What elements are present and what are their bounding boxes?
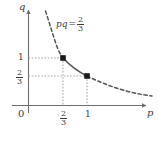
data-point-marker-b bbox=[84, 73, 90, 79]
equation-lhs: pq bbox=[56, 20, 68, 29]
fraction-denominator: 3 bbox=[16, 77, 23, 86]
fraction-numerator: 2 bbox=[16, 69, 23, 77]
y-axis-label: q bbox=[19, 2, 25, 12]
y-tick-label-1: 1 bbox=[18, 53, 24, 62]
curve-equation-label: pq = 2 3 bbox=[56, 16, 84, 34]
curve-solid-segment bbox=[63, 58, 87, 76]
data-point-marker-a bbox=[60, 55, 66, 61]
equation-equals: = bbox=[69, 20, 77, 29]
x-tick-label-two-thirds: 2 3 bbox=[60, 110, 67, 128]
fraction-two-thirds-y: 2 3 bbox=[16, 69, 23, 87]
fraction-two-thirds-x: 2 3 bbox=[60, 110, 67, 128]
curve-dashed-lower bbox=[87, 76, 152, 96]
fraction-numerator: 2 bbox=[60, 110, 67, 118]
x-axis-label: p bbox=[147, 108, 153, 118]
fraction-denominator: 3 bbox=[77, 24, 84, 33]
equation-fraction: 2 3 bbox=[77, 16, 84, 34]
hyperbola-figure: q p 0 1 2 3 2 3 1 pq = 2 3 bbox=[0, 0, 159, 149]
x-tick-label-1: 1 bbox=[85, 110, 91, 119]
origin-label: 0 bbox=[18, 109, 24, 119]
fraction-denominator: 3 bbox=[60, 118, 67, 127]
y-tick-label-two-thirds: 2 3 bbox=[16, 69, 23, 87]
fraction-numerator: 2 bbox=[77, 16, 84, 24]
